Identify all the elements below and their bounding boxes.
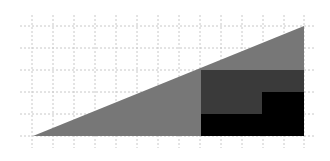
diagram-canvas	[0, 0, 330, 161]
